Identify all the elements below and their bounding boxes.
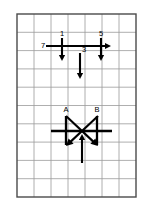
vector-label-1: 1 — [60, 29, 64, 38]
vector-label-7: 7 — [41, 41, 45, 50]
bar-label-B: B — [94, 105, 99, 114]
vector-diagram-figure: 7153AB — [0, 0, 153, 211]
up-vector-head — [79, 134, 85, 140]
label-layer: 7153AB — [41, 29, 103, 114]
bar-label-A: A — [63, 105, 68, 114]
horizontal-vector-head — [105, 43, 111, 49]
down-vector-head-5 — [98, 55, 104, 61]
vector-label-3: 3 — [82, 45, 86, 54]
vector-label-5: 5 — [99, 29, 103, 38]
down-vector-head-3 — [77, 73, 83, 79]
down-vector-head-1 — [59, 55, 65, 61]
diagram-canvas: 7153AB — [0, 0, 153, 211]
grid-layer — [17, 14, 136, 197]
